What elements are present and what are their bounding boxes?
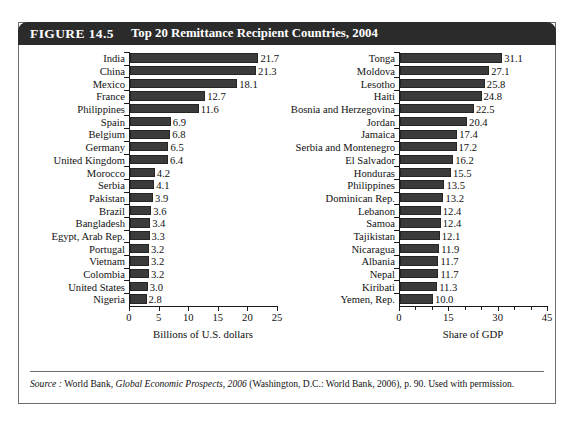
category-label: Nigeria [93,294,125,305]
bar-value-label: 24.8 [484,91,503,102]
bar-row: Samoa12.4 [399,217,547,230]
category-label: Egypt, Arab Rep. [51,230,125,241]
bar-value-label: 15.5 [453,167,472,178]
bar-row: Lebanon12.4 [399,204,547,217]
bar-value-label: 18.1 [239,78,258,89]
figure-header: FIGURE 14.5 Top 20 Remittance Recipient … [18,22,556,45]
bar-row: Mexico18.1 [129,77,277,90]
x-axis-minor-tick [531,306,532,310]
bar-row: Portugal3.2 [129,242,277,255]
category-label: India [103,53,125,64]
bar-row: Vietnam3.2 [129,255,277,268]
bar [400,104,474,113]
bar [130,130,170,139]
x-axis-line-billions [129,306,277,307]
bar-value-label: 4.2 [157,167,170,178]
bar-row: Dominican Rep.13.2 [399,192,547,205]
bar-value-label: 27.1 [491,66,510,77]
bar [130,294,147,303]
bar-row: Germany6.5 [129,141,277,154]
bar-value-label: 2.8 [149,294,162,305]
category-label: Spain [101,116,125,127]
bar-row: Colombia3.2 [129,268,277,281]
bar [130,142,168,151]
bar [130,155,168,164]
bar-row: Belgium6.8 [129,128,277,141]
x-axis-minor-tick [514,306,515,310]
bar-row: United Kingdom6.4 [129,154,277,167]
category-label: Tonga [369,53,395,64]
bar [130,193,153,202]
bar-row: Jamaica17.4 [399,128,547,141]
bar-row: France12.7 [129,90,277,103]
bar [130,91,205,100]
bar-value-label: 3.4 [152,218,165,229]
bar-row: Honduras15.5 [399,166,547,179]
bar-row: Tonga31.1 [399,52,547,65]
bar-value-label: 11.3 [439,281,457,292]
bar-value-label: 17.4 [459,129,478,140]
x-axis-tick-label: 0 [396,312,401,324]
x-axis-tick [399,306,400,311]
category-label: Tajikistan [353,230,395,241]
x-axis-tick-label: 30 [492,312,503,324]
bar-row: Egypt, Arab Rep.3.3 [129,230,277,243]
bar [400,218,441,227]
bar-value-label: 16.2 [455,154,474,165]
x-axis-tick [159,306,160,311]
bar-row: Serbia4.1 [129,179,277,192]
source-note: Source : World Bank, Global Economic Pro… [30,378,546,390]
category-label: United Kingdom [53,154,125,165]
x-axis-tick [277,306,278,311]
bar [400,193,443,202]
bar [400,244,439,253]
x-axis-tick-label: 0 [126,312,131,324]
x-axis-tick [129,306,130,311]
category-label: France [96,91,125,102]
bar [400,168,451,177]
bar-value-label: 22.5 [476,104,495,115]
bar [130,282,148,291]
bar-row: Brazil3.6 [129,204,277,217]
bar [400,269,438,278]
bar [130,104,199,113]
category-label: Pakistan [89,192,125,203]
bar [130,206,151,215]
source-divider [30,371,544,372]
x-axis-tick-label: 25 [272,312,283,324]
category-label: Colombia [83,269,125,280]
bar-row: Nigeria2.8 [129,293,277,306]
category-label: Lebanon [358,205,395,216]
x-axis-tick-label: 20 [242,312,253,324]
source-work-title: Global Economic Prospects, 2006 [116,378,247,389]
bar [400,180,444,189]
bar-value-label: 20.4 [469,116,488,127]
x-axis-tick-label: 15 [443,312,454,324]
bar-value-label: 3.2 [151,269,164,280]
bar [400,79,485,88]
bar-row: Serbia and Montenegro17.2 [399,141,547,154]
bar-value-label: 10.0 [435,294,454,305]
bar-value-label: 21.3 [258,66,277,77]
bar-value-label: 12.4 [443,205,462,216]
bar [400,91,482,100]
plot-area-billions: India21.7China21.3Mexico18.1France12.7Ph… [129,52,277,306]
bar [130,256,149,265]
bar-row: Nicaragua11.9 [399,242,547,255]
x-axis-minor-tick [432,306,433,310]
category-label: Kiribati [362,281,395,292]
category-label: Belgium [89,129,126,140]
x-axis-tick-label: 5 [156,312,161,324]
bar-value-label: 12.7 [207,91,226,102]
bar-value-label: 13.5 [446,180,465,191]
bar [130,53,258,62]
chart-panel-billions: India21.7China21.3Mexico18.1France12.7Ph… [19,46,287,366]
bar [130,66,256,75]
category-label: United States [68,281,125,292]
bar-row: Bosnia and Herzegovina22.5 [399,103,547,116]
bar [130,231,150,240]
bar-value-label: 6.9 [173,116,186,127]
bar [400,66,489,75]
x-axis-line-share-of-gdp [399,306,547,307]
bar [130,168,155,177]
